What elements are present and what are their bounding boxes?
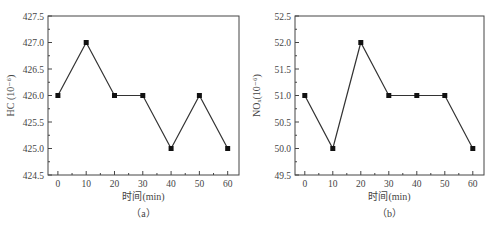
y-tick-label: 50.0 [274,144,291,154]
chart-panel-b: 49.550.050.551.051.552.052.5010203040506… [251,12,484,220]
x-tick-label: 40 [412,179,422,189]
chart-panel-a: 424.5425.0425.5426.0426.5427.0427.501020… [5,12,239,220]
x-tick-label: 60 [223,179,233,189]
data-point-marker [84,40,89,45]
y-tick-label: 427.5 [23,12,45,22]
data-point-marker [302,93,307,98]
data-point-marker [55,93,60,98]
y-tick-label: 425.5 [23,118,45,128]
data-point-marker [112,93,117,98]
panel-caption: （b） [377,208,402,219]
panel-caption: （a） [131,208,155,219]
data-point-marker [225,146,230,151]
x-tick-label: 30 [384,179,394,189]
data-point-marker [442,93,447,98]
data-point-marker [358,40,363,45]
y-tick-label: 424.5 [23,171,45,181]
x-tick-label: 0 [302,179,307,189]
y-tick-label: 50.5 [274,118,291,128]
x-tick-label: 30 [138,179,148,189]
x-tick-label: 20 [356,179,366,189]
data-point-marker [414,93,419,98]
x-tick-label: 60 [468,179,478,189]
data-point-marker [140,93,145,98]
figure: 424.5425.0425.5426.0426.5427.0427.501020… [0,0,491,227]
data-point-marker [197,93,202,98]
data-point-marker [470,146,475,151]
data-point-marker [386,93,391,98]
y-axis-title: NOₓ(10⁻⁶) [251,74,263,117]
x-tick-label: 20 [110,179,120,189]
y-tick-label: 427.0 [23,38,45,48]
y-tick-label: 52.0 [274,38,291,48]
x-tick-label: 10 [328,179,338,189]
y-tick-label: 51.0 [274,91,291,101]
y-tick-label: 49.5 [274,171,291,181]
x-tick-label: 40 [166,179,176,189]
x-tick-label: 0 [56,179,61,189]
y-tick-label: 425.0 [23,144,45,154]
y-tick-label: 426.0 [23,91,45,101]
data-point-marker [169,146,174,151]
x-axis-title: 时间(min) [368,190,410,203]
data-point-marker [330,146,335,151]
y-tick-label: 426.5 [23,65,45,75]
x-tick-label: 10 [81,179,91,189]
y-tick-label: 51.5 [274,65,291,75]
x-axis-title: 时间(min) [122,190,164,203]
y-axis-title: HC (10⁻⁶) [5,75,17,117]
y-tick-label: 52.5 [274,12,291,22]
x-tick-label: 50 [440,179,450,189]
x-tick-label: 50 [195,179,205,189]
